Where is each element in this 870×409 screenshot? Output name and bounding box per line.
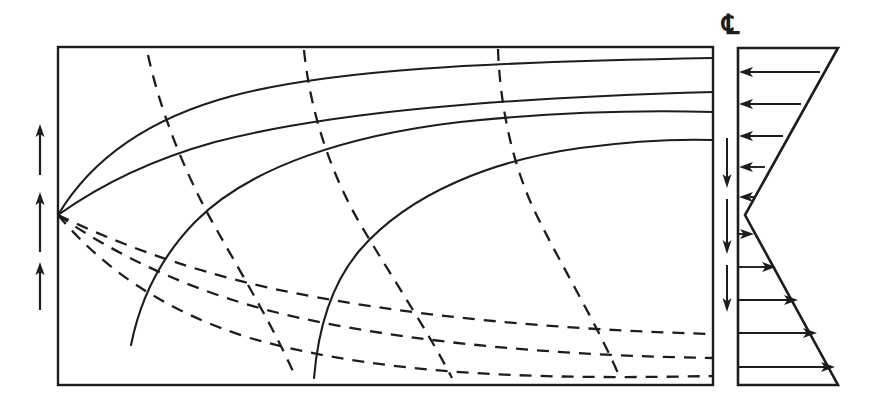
down-arrow-1 xyxy=(723,138,732,188)
velocity-vector xyxy=(739,67,820,77)
equipotential-5 xyxy=(58,215,713,358)
streamline-1 xyxy=(58,58,713,215)
velocity-vector xyxy=(739,328,817,338)
diagram-canvas: ℄ xyxy=(0,0,870,409)
centerline-symbol: ℄ xyxy=(720,10,740,40)
velocity-profile-outline xyxy=(738,48,838,385)
streamline-3 xyxy=(131,111,713,345)
down-arrow-3 xyxy=(723,265,732,312)
equipotential-6 xyxy=(58,215,713,377)
velocity-vector xyxy=(739,131,783,141)
figure-root: ℄ xyxy=(0,0,870,409)
streamline-2 xyxy=(58,92,713,215)
inlet-arrow-1 xyxy=(36,124,45,175)
velocity-vector xyxy=(739,162,765,172)
streamline-4 xyxy=(314,140,713,378)
equipotential-2 xyxy=(304,50,452,378)
velocity-vector xyxy=(739,99,801,109)
velocity-vector xyxy=(739,229,754,239)
inlet-arrow-3 xyxy=(36,262,45,310)
inlet-arrow-2 xyxy=(36,192,45,252)
inlet-flow-arrows xyxy=(36,124,45,310)
velocity-vectors-reverse xyxy=(739,67,820,202)
equipotential-1 xyxy=(148,55,296,378)
outlet-downward-arrows xyxy=(723,138,732,312)
velocity-profile-plot xyxy=(738,48,838,385)
down-arrow-2 xyxy=(723,199,732,254)
equipotentials-group xyxy=(58,49,713,378)
flow-domain-box xyxy=(58,47,713,385)
velocity-vector xyxy=(739,362,835,372)
velocity-vector xyxy=(739,192,754,202)
